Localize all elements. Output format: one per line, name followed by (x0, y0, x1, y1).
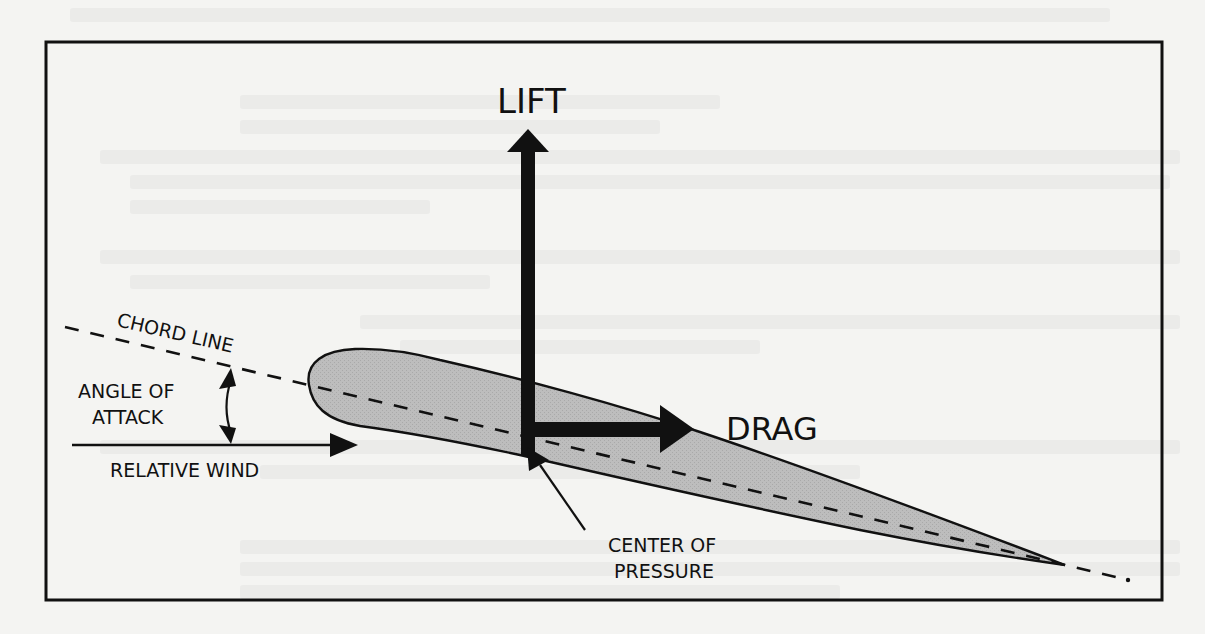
frame (46, 42, 1162, 600)
airfoil (308, 349, 1065, 565)
drag-label: DRAG (726, 410, 818, 448)
lift-label: LIFT (497, 81, 566, 121)
angle-of-attack-label-line1: ANGLE OF (78, 380, 174, 402)
airfoil-forces-diagram: LIFT DRAG CHORD LINE ANGLE OF ATTACK REL… (0, 0, 1205, 634)
chord-line-end-dot (1126, 578, 1130, 582)
relative-wind-arrow (72, 433, 358, 457)
angle-of-attack-label-line2: ATTACK (92, 406, 164, 428)
angle-of-attack-arrow (219, 368, 236, 444)
center-of-pressure-label-line1: CENTER OF (608, 534, 716, 556)
center-of-pressure-label-line2: PRESSURE (614, 560, 714, 582)
relative-wind-label: RELATIVE WIND (110, 459, 259, 481)
chord-line-label: CHORD LINE (115, 308, 236, 356)
